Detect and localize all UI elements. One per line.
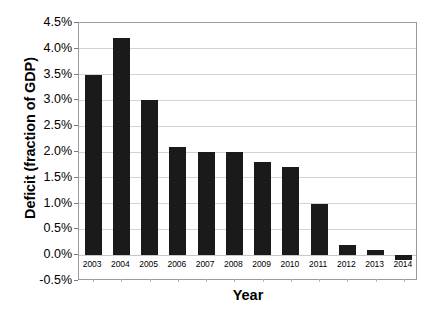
y-tick-mark — [74, 99, 78, 100]
y-tick-label: 3.0% — [0, 93, 72, 105]
y-tick-label: -0.5% — [0, 274, 72, 286]
bar — [367, 250, 384, 255]
y-tick-mark — [74, 177, 78, 178]
y-tick-label: 1.5% — [0, 171, 72, 183]
x-tick-mark — [121, 279, 122, 282]
deficit-bar-chart: Deficit (fraction of GDP) 4.5%4.0%3.5%3.… — [0, 0, 430, 309]
x-tick-mark — [206, 279, 207, 282]
bar — [169, 147, 186, 255]
x-tick-mark — [234, 279, 235, 282]
y-tick-mark — [74, 74, 78, 75]
bar — [226, 152, 243, 255]
y-tick-mark — [74, 125, 78, 126]
x-tick-mark — [150, 279, 151, 282]
bar — [198, 152, 215, 255]
y-tick-mark — [74, 280, 78, 281]
x-tick-mark — [319, 279, 320, 282]
y-tick-label: 1.0% — [0, 197, 72, 209]
x-tick-mark — [404, 279, 405, 282]
y-tick-mark — [74, 22, 78, 23]
y-tick-label: 2.5% — [0, 119, 72, 131]
y-tick-mark — [74, 254, 78, 255]
plot-area — [78, 22, 417, 280]
y-tick-label: 4.5% — [0, 16, 72, 28]
x-axis-title: Year — [78, 286, 418, 304]
bar — [85, 75, 102, 256]
y-tick-mark — [74, 228, 78, 229]
y-tick-mark — [74, 151, 78, 152]
y-tick-label: 3.5% — [0, 68, 72, 80]
y-tick-label: 0.0% — [0, 248, 72, 260]
x-tick-mark — [93, 279, 94, 282]
x-tick-mark — [347, 279, 348, 282]
bar — [339, 245, 356, 255]
x-tick-mark — [263, 279, 264, 282]
bar — [141, 100, 158, 255]
y-tick-label: 4.0% — [0, 42, 72, 54]
y-tick-label: 2.0% — [0, 145, 72, 157]
bar — [311, 204, 328, 256]
bar — [113, 38, 130, 255]
x-tick-mark — [291, 279, 292, 282]
y-tick-mark — [74, 48, 78, 49]
bar — [282, 167, 299, 255]
x-tick-label: 2014 — [386, 259, 420, 270]
y-tick-mark — [74, 203, 78, 204]
bar — [254, 162, 271, 255]
y-tick-label: 0.5% — [0, 222, 72, 234]
x-tick-mark — [178, 279, 179, 282]
x-tick-mark — [376, 279, 377, 282]
y-axis-tick-labels: 4.5%4.0%3.5%3.0%2.5%2.0%1.5%1.0%0.5%0.0%… — [0, 0, 74, 309]
